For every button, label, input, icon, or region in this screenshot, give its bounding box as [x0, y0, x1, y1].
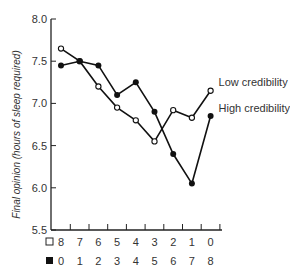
x-tick-label: 3 — [151, 236, 157, 248]
x-tick-label: 0 — [58, 255, 64, 267]
x-tick-label: 6 — [170, 255, 176, 267]
filled-circle-marker — [152, 109, 158, 115]
filled-circle-marker — [208, 113, 214, 119]
x-tick-label: 3 — [114, 255, 120, 267]
y-tick-label: 8.0 — [32, 13, 47, 25]
x-tick-label: 1 — [77, 255, 83, 267]
x-tick-label: 5 — [114, 236, 120, 248]
x-tick-label: 1 — [189, 236, 195, 248]
x-tick-label: 6 — [95, 236, 101, 248]
series-label: Low credibility — [219, 76, 289, 88]
open-circle-marker — [133, 118, 138, 123]
open-circle-marker — [171, 108, 176, 113]
filled-circle-marker — [133, 79, 139, 85]
x-tick-label: 7 — [189, 255, 195, 267]
filled-square-icon — [46, 257, 53, 264]
series-label: High credibility — [219, 102, 290, 114]
x-tick-label: 8 — [58, 236, 64, 248]
y-axis-label: Final opinion (hours of sleep required) — [11, 50, 22, 218]
x-tick-label: 0 — [208, 236, 214, 248]
x-tick-label: 4 — [133, 255, 139, 267]
line-chart: 5.56.06.57.07.58.0 876543210012345678Fin… — [0, 0, 290, 272]
y-tick-label: 6.5 — [32, 140, 47, 152]
open-circle-marker — [58, 46, 63, 51]
open-circle-marker — [96, 84, 101, 89]
filled-circle-marker — [189, 181, 195, 187]
open-square-icon — [46, 238, 53, 245]
x-tick-label: 8 — [208, 255, 214, 267]
y-tick-label: 7.0 — [32, 97, 47, 109]
filled-circle-marker — [95, 62, 101, 68]
x-tick-label: 2 — [170, 236, 176, 248]
x-tick-label: 4 — [133, 236, 139, 248]
series-group — [58, 46, 214, 187]
filled-circle-marker — [58, 62, 64, 68]
open-circle-marker — [115, 105, 120, 110]
filled-circle-marker — [114, 92, 120, 98]
filled-circle-marker — [77, 58, 83, 64]
x-tick-label: 2 — [95, 255, 101, 267]
y-tick-label: 7.5 — [32, 55, 47, 67]
labels-group: 876543210012345678Final opinion (hours o… — [11, 50, 290, 267]
open-circle-marker — [208, 88, 213, 93]
open-circle-marker — [189, 115, 194, 120]
y-tick-label: 6.0 — [32, 182, 47, 194]
y-tick-label: 5.5 — [32, 224, 47, 236]
open-circle-marker — [152, 139, 157, 144]
x-tick-label: 7 — [77, 236, 83, 248]
x-tick-label: 5 — [151, 255, 157, 267]
filled-circle-marker — [170, 151, 176, 157]
